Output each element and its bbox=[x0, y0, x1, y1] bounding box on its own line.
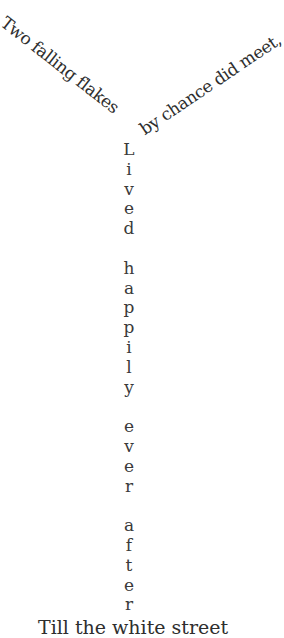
letter: a bbox=[118, 516, 140, 536]
letter: e bbox=[118, 417, 140, 437]
letter: h bbox=[118, 259, 140, 279]
letter: d bbox=[118, 219, 140, 239]
letter: e bbox=[118, 457, 140, 477]
letter: a bbox=[118, 279, 140, 299]
poem-line-till-the-white-street: Till the white street bbox=[38, 618, 228, 637]
letter: i bbox=[118, 160, 140, 180]
letter: p bbox=[118, 318, 140, 338]
word-gap bbox=[118, 496, 140, 516]
letter: y bbox=[118, 378, 140, 398]
letter: p bbox=[118, 298, 140, 318]
word-gap bbox=[118, 239, 140, 259]
letter: f bbox=[118, 536, 140, 556]
letter: v bbox=[118, 180, 140, 200]
letter: l bbox=[118, 358, 140, 378]
vertical-phrase-lived-happily-ever-after: L i v e d h a p p i l y e v e r a f t e … bbox=[118, 140, 140, 615]
letter: i bbox=[118, 338, 140, 358]
poem-line-two-falling-flakes: Two falling flakes bbox=[0, 14, 122, 116]
letter: t bbox=[118, 556, 140, 576]
letter: e bbox=[118, 576, 140, 596]
letter: e bbox=[118, 199, 140, 219]
word-gap bbox=[118, 397, 140, 417]
poem-line-by-chance-did-meet: by chance did meet, bbox=[137, 31, 284, 138]
letter: r bbox=[118, 595, 140, 615]
letter: r bbox=[118, 477, 140, 497]
letter: L bbox=[118, 140, 140, 160]
letter: v bbox=[118, 437, 140, 457]
